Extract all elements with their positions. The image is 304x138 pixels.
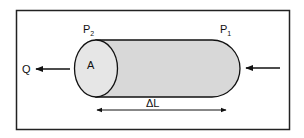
cross-section-ellipse: [75, 40, 118, 97]
label-flow: Q: [22, 63, 31, 75]
label-area: A: [87, 59, 95, 71]
pipe-flow-diagram: P2 P1 A Q ΔL: [0, 0, 304, 138]
label-length: ΔL: [146, 97, 159, 109]
